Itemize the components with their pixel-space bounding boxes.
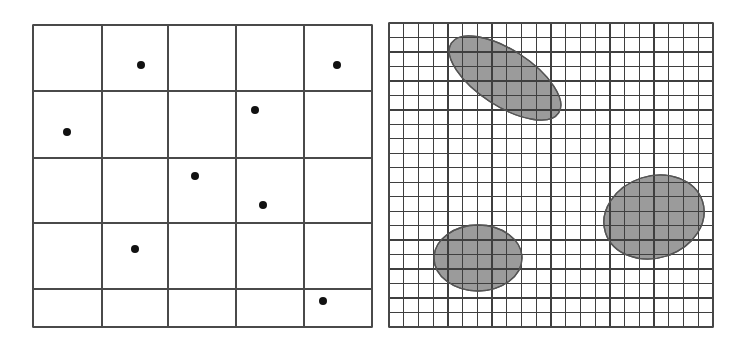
fine-grid-lines <box>389 20 715 327</box>
point-marker <box>137 61 145 69</box>
coarse-grid-border <box>33 25 372 327</box>
point-marker <box>131 245 139 253</box>
point-marker <box>191 172 199 180</box>
point-marker <box>259 201 267 209</box>
grid-diagram <box>0 0 743 340</box>
point-marker <box>319 297 327 305</box>
shaded-regions <box>434 20 715 291</box>
point-marker <box>63 128 71 136</box>
fine-grid-panel <box>389 20 715 327</box>
coarse-grid-lines <box>33 25 372 327</box>
point-marker <box>333 61 341 69</box>
point-markers <box>63 61 341 305</box>
point-marker <box>251 106 259 114</box>
coarse-grid-panel <box>33 25 372 327</box>
